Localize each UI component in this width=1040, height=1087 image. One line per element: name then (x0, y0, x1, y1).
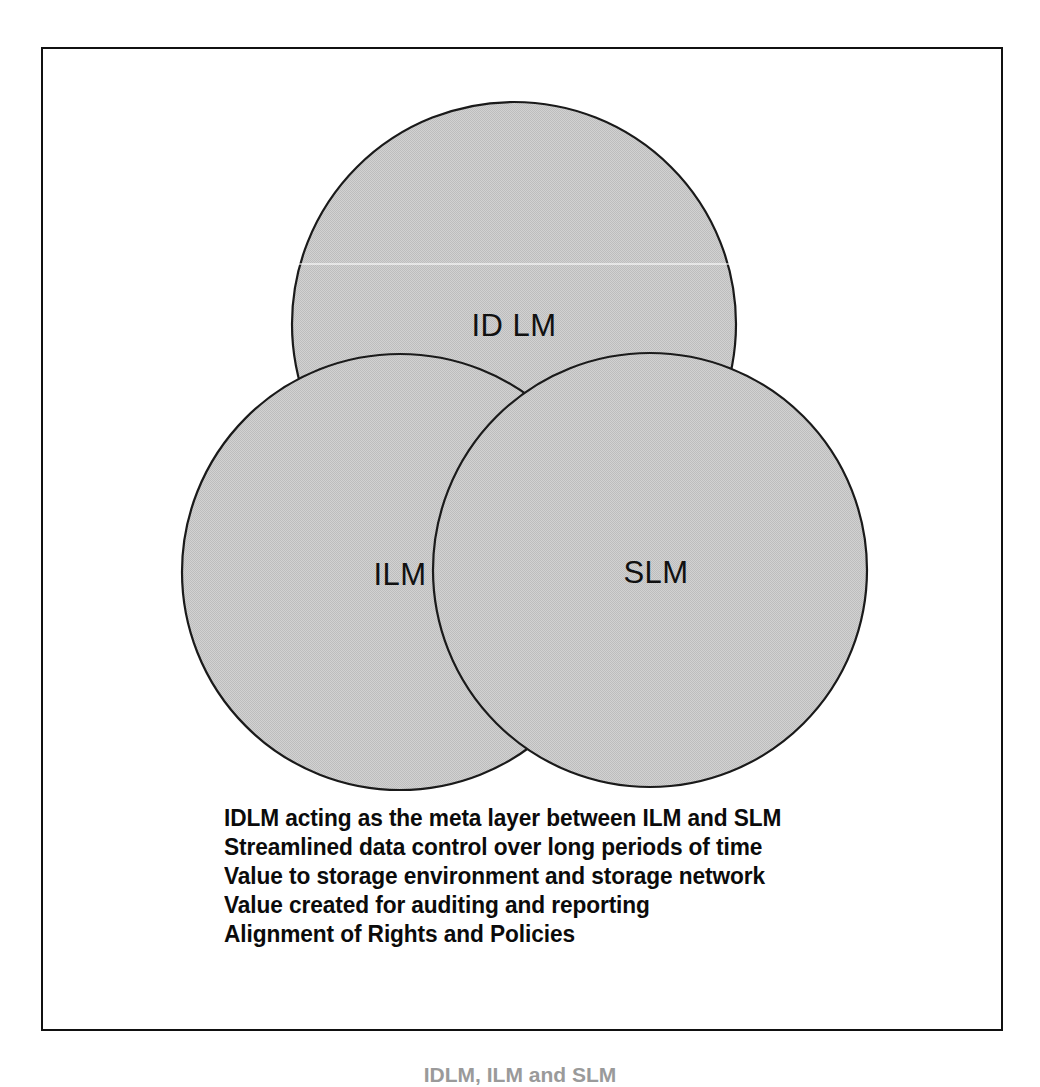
bullet-line-5: Alignment of Rights and Policies (224, 920, 938, 949)
bullet-line-1: IDLM acting as the meta layer between IL… (224, 804, 938, 833)
circle-label-slm: SLM (623, 555, 688, 590)
bullet-line-4: Value created for auditing and reporting (224, 891, 938, 920)
bullet-line-3: Value to storage environment and storage… (224, 862, 938, 891)
bullet-line-2: Streamlined data control over long perio… (224, 833, 938, 862)
venn-svg: ID LM ILM SLM (43, 49, 1005, 809)
venn-diagram: ID LM ILM SLM (43, 49, 1005, 809)
bullet-list: IDLM acting as the meta layer between IL… (224, 804, 964, 949)
figure-frame: ID LM ILM SLM IDLM acting as the meta la… (41, 47, 1003, 1031)
figure-caption: IDLM, ILM and SLM (0, 1063, 1040, 1087)
circle-label-ilm: ILM (373, 557, 426, 592)
circle-label-idlm: ID LM (471, 308, 556, 343)
